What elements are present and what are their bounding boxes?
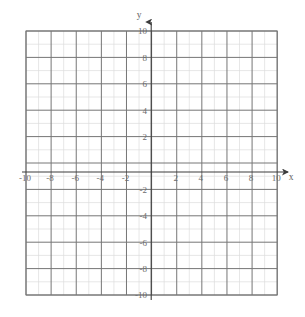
x-axis-tick-label: 2: [173, 173, 178, 183]
y-axis-tick-label: 8: [143, 53, 148, 63]
x-axis-tick-label: 8: [249, 173, 254, 183]
y-axis-tick-label: -10: [135, 290, 147, 300]
x-axis-tick-label: -8: [46, 173, 54, 183]
coordinate-graph-figure: -10-8-6-4-2246810 108642-2-4-6-8-10 x y: [0, 0, 305, 317]
figure-background: [0, 0, 305, 317]
y-axis-name-label: y: [137, 10, 142, 20]
x-axis-tick-label: 10: [272, 173, 282, 183]
x-axis-name-label: x: [289, 172, 294, 182]
x-axis-tick-label: -2: [122, 173, 130, 183]
y-axis-tick-label: 10: [138, 26, 148, 36]
y-axis-tick-label: 2: [143, 132, 148, 142]
x-axis-tick-label: -4: [97, 173, 105, 183]
x-axis-tick-label: 4: [199, 173, 204, 183]
coordinate-plane-svg: -10-8-6-4-2246810 108642-2-4-6-8-10 x y: [0, 0, 305, 317]
y-axis-tick-label: -4: [140, 211, 148, 221]
x-axis-tick-label: 6: [224, 173, 229, 183]
y-axis-tick-label: -2: [140, 185, 148, 195]
y-axis-tick-label: 6: [143, 79, 148, 89]
y-axis-tick-label: -6: [140, 238, 148, 248]
x-axis-tick-label: -10: [19, 173, 31, 183]
x-axis-tick-label: -6: [71, 173, 79, 183]
y-axis-tick-label: 4: [143, 106, 148, 116]
y-axis-tick-label: -8: [140, 264, 148, 274]
